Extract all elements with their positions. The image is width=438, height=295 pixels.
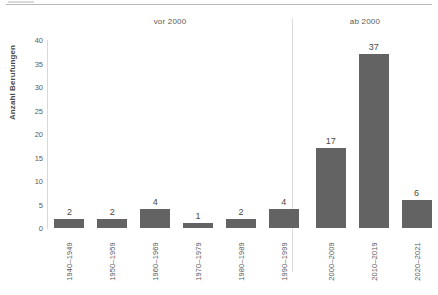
bar[interactable] bbox=[269, 209, 299, 228]
x-tick: 1990–1999 bbox=[269, 231, 299, 293]
bar-group: 2 bbox=[226, 40, 256, 228]
bar[interactable] bbox=[54, 219, 84, 228]
bar[interactable] bbox=[183, 223, 213, 228]
x-tick: 2000–2009 bbox=[316, 231, 346, 293]
x-tick-label: 1970–1979 bbox=[194, 242, 203, 280]
x-tick-label: 1950–1959 bbox=[108, 242, 117, 280]
x-tick: 1950–1959 bbox=[97, 231, 127, 293]
x-tick-label: 2000–2009 bbox=[326, 242, 335, 280]
bar[interactable] bbox=[140, 209, 170, 228]
y-tick-label: 5 bbox=[6, 200, 48, 209]
x-tick: 1960–1969 bbox=[140, 231, 170, 293]
bar-value-label: 1 bbox=[183, 211, 213, 221]
bar[interactable] bbox=[402, 200, 432, 228]
y-tick-label: 40 bbox=[6, 36, 48, 45]
x-tick-label: 1980–1989 bbox=[237, 242, 246, 280]
group-header-ab-2000: ab 2000 bbox=[292, 17, 438, 26]
x-tick-label: 1940–1949 bbox=[65, 242, 74, 280]
y-axis-ticks: 0510152025303540 bbox=[6, 40, 48, 228]
x-tick-label: 1960–1969 bbox=[151, 242, 160, 280]
bar-group: 4 bbox=[140, 40, 170, 228]
y-tick-label: 10 bbox=[6, 177, 48, 186]
bar-value-label: 4 bbox=[140, 197, 170, 207]
bar-value-label: 2 bbox=[54, 207, 84, 217]
x-tick-label: 1990–1999 bbox=[279, 242, 288, 280]
group-header-vor-2000: vor 2000 bbox=[48, 17, 292, 26]
y-tick-label: 15 bbox=[6, 153, 48, 162]
bar-group: 1 bbox=[183, 40, 213, 228]
bar-group: 2 bbox=[97, 40, 127, 228]
x-tick-label: 2020–2021 bbox=[412, 242, 421, 280]
bar-value-label: 37 bbox=[359, 42, 389, 52]
bar-group: 6 bbox=[402, 40, 432, 228]
x-tick-label: 2010–2019 bbox=[369, 242, 378, 280]
y-tick-label: 30 bbox=[6, 83, 48, 92]
x-tick: 1940–1949 bbox=[54, 231, 84, 293]
bar-group: 2 bbox=[54, 40, 84, 228]
y-tick-label: 25 bbox=[6, 106, 48, 115]
y-tick-label: 0 bbox=[6, 224, 48, 233]
bar[interactable] bbox=[97, 219, 127, 228]
y-tick-label: 35 bbox=[6, 59, 48, 68]
bar-group: 4 bbox=[269, 40, 299, 228]
bar-value-label: 2 bbox=[226, 207, 256, 217]
bar-group: 17 bbox=[316, 40, 346, 228]
x-tick: 2010–2019 bbox=[359, 231, 389, 293]
x-tick: 1980–1989 bbox=[226, 231, 256, 293]
bar[interactable] bbox=[316, 148, 346, 228]
bar-value-label: 17 bbox=[316, 136, 346, 146]
bar-group: 37 bbox=[359, 40, 389, 228]
bar[interactable] bbox=[226, 219, 256, 228]
x-tick: 1970–1979 bbox=[183, 231, 213, 293]
bar-value-label: 6 bbox=[402, 188, 432, 198]
bar[interactable] bbox=[359, 54, 389, 228]
plot-area: 22412417376 bbox=[48, 40, 434, 228]
bar-chart: vor 2000 ab 2000 Anzahl Berufungen 05101… bbox=[0, 0, 438, 295]
x-axis-labels: 1940–19491950–19591960–19691970–19791980… bbox=[48, 231, 434, 293]
x-tick: 2020–2021 bbox=[402, 231, 432, 293]
y-tick-label: 20 bbox=[6, 130, 48, 139]
bar-value-label: 2 bbox=[97, 207, 127, 217]
bar-value-label: 4 bbox=[269, 197, 299, 207]
